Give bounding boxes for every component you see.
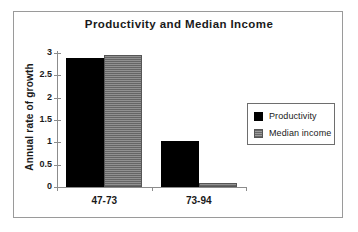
y-tick-label: 3 xyxy=(30,47,52,57)
y-tick-label: 2.5 xyxy=(30,69,52,79)
y-tick xyxy=(54,142,61,143)
x-tick xyxy=(152,187,153,191)
y-tick xyxy=(54,75,61,76)
legend: Productivity Median income xyxy=(247,103,335,145)
y-tick-label: 0 xyxy=(30,181,52,191)
y-tick xyxy=(54,165,61,166)
legend-swatch-median-income xyxy=(254,129,263,138)
x-tick-label: 47-73 xyxy=(57,195,152,206)
legend-swatch-productivity xyxy=(254,112,263,121)
y-tick xyxy=(54,120,61,121)
y-tick xyxy=(54,98,61,99)
legend-item-productivity: Productivity xyxy=(254,110,317,122)
bar-median-income-47-73 xyxy=(104,55,142,187)
y-tick-label: 1 xyxy=(30,136,52,146)
chart-title: Productivity and Median Income xyxy=(0,18,358,30)
y-tick xyxy=(54,53,61,54)
bar-productivity-73-94 xyxy=(161,141,199,187)
x-tick xyxy=(246,187,247,191)
legend-label-productivity: Productivity xyxy=(269,111,317,121)
y-tick-label: 0.5 xyxy=(30,159,52,169)
y-tick-label: 1.5 xyxy=(30,114,52,124)
bar-median-income-73-94 xyxy=(199,183,237,187)
bar-productivity-47-73 xyxy=(66,58,104,187)
x-tick-label: 73-94 xyxy=(152,195,247,206)
chart-screenshot: Productivity and Median Income Annual ra… xyxy=(0,0,358,232)
x-tick xyxy=(57,187,58,191)
legend-item-median-income: Median income xyxy=(254,127,331,139)
legend-label-median-income: Median income xyxy=(269,128,331,138)
y-tick-label: 2 xyxy=(30,92,52,102)
